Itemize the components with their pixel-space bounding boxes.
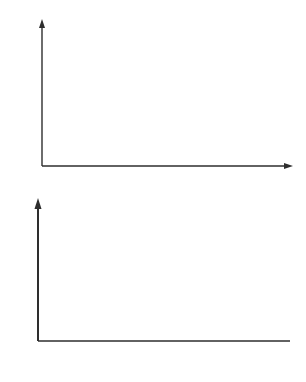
similarity-chart: [35, 198, 291, 341]
figure: [0, 0, 306, 382]
membership-chart: [39, 19, 293, 169]
top-y-axis-arrow-icon: [39, 19, 45, 28]
top-x-axis-arrow-icon: [284, 163, 293, 169]
bottom-y-axis-arrow-icon: [35, 198, 42, 209]
